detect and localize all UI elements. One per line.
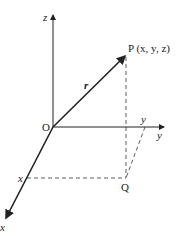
y-mark-label: y bbox=[141, 114, 146, 125]
point-p-label: P (x, y, z) bbox=[128, 43, 170, 54]
vector-r-label: r bbox=[84, 80, 88, 91]
y-axis-label: y bbox=[157, 130, 162, 141]
z-axis-label: z bbox=[43, 12, 47, 23]
x-mark-label: x bbox=[18, 173, 23, 184]
axes-graphic bbox=[0, 0, 176, 236]
dashed-y-to-q bbox=[126, 127, 145, 178]
x-axis bbox=[6, 127, 53, 218]
point-q-label: Q bbox=[121, 182, 129, 193]
x-axis-label: x bbox=[0, 222, 5, 233]
origin-label: O bbox=[42, 122, 50, 133]
position-vector-r bbox=[53, 56, 125, 127]
coordinate-diagram: z y x O P (x, y, z) r Q x y bbox=[0, 0, 176, 236]
